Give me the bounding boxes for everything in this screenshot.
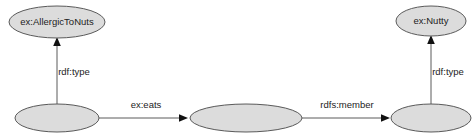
rdf-graph-diagram: rdf:type ex:eats rdfs:member rdf:type ex… — [0, 0, 473, 136]
node-blank-node-2[interactable] — [190, 104, 302, 132]
node-ellipse-shape[interactable] — [15, 104, 99, 132]
arrowhead-right-icon — [179, 114, 188, 122]
node-blank-node-3[interactable] — [391, 104, 471, 132]
edge-rdf-type-left: rdf:type — [53, 37, 90, 104]
graph-canvas: rdf:type ex:eats rdfs:member rdf:type ex… — [0, 0, 473, 136]
edge-label-rdf-type-right: rdf:type — [432, 66, 464, 77]
edge-label-ex-eats: ex:eats — [131, 99, 162, 110]
node-ellipse-shape[interactable] — [190, 104, 302, 132]
node-class-allergic-to-nuts[interactable]: ex:AllergicToNuts — [9, 6, 105, 38]
edge-rdf-type-right: rdf:type — [427, 35, 464, 104]
node-ellipse-shape[interactable] — [391, 104, 471, 132]
edge-ex-eats: ex:eats — [99, 99, 188, 122]
node-blank-node-1[interactable] — [15, 104, 99, 132]
node-label-nutty: ex:Nutty — [414, 15, 449, 26]
edge-label-rdfs-member: rdfs:member — [320, 99, 373, 110]
node-label-allergic-to-nuts: ex:AllergicToNuts — [20, 16, 94, 27]
node-class-nutty[interactable]: ex:Nutty — [396, 6, 466, 36]
arrowhead-right-icon — [381, 114, 390, 122]
edge-label-rdf-type-left: rdf:type — [58, 66, 90, 77]
edge-rdfs-member: rdfs:member — [302, 99, 390, 122]
